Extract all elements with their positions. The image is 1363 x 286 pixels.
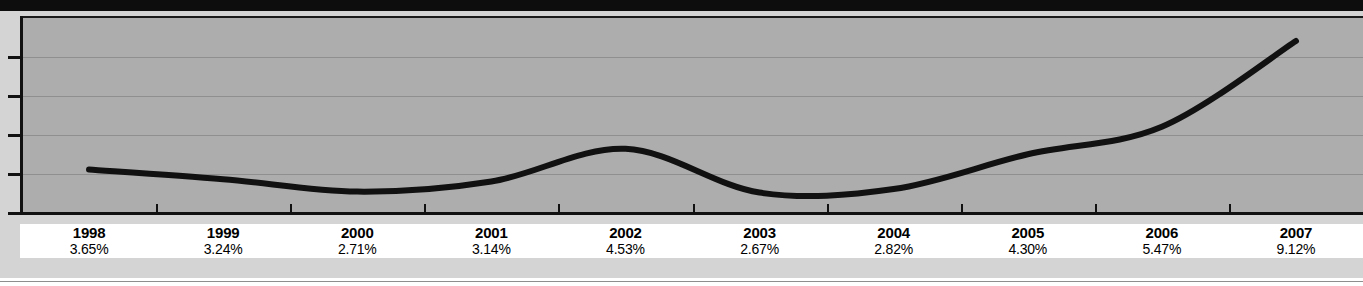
x-label-value: 5.47%	[1099, 241, 1225, 257]
y-axis-tick	[8, 173, 21, 176]
y-axis-tick	[8, 212, 21, 215]
x-label-cell: 20013.14%	[428, 224, 554, 257]
x-label-year: 2000	[294, 224, 420, 241]
x-label-year: 2003	[697, 224, 823, 241]
bottom-gutter	[0, 278, 1363, 286]
x-label-value: 4.53%	[562, 241, 688, 257]
x-label-cell: 20032.67%	[697, 224, 823, 257]
x-label-cell: 19983.65%	[26, 224, 152, 257]
x-label-year: 2006	[1099, 224, 1225, 241]
x-label-value: 4.30%	[965, 241, 1091, 257]
x-label-value: 3.14%	[428, 241, 554, 257]
x-label-year: 1998	[26, 224, 152, 241]
y-axis-tick	[8, 95, 21, 98]
x-label-cell: 20079.12%	[1233, 224, 1359, 257]
top-black-band	[0, 0, 1363, 11]
x-label-cell: 20065.47%	[1099, 224, 1225, 257]
x-label-year: 2004	[831, 224, 957, 241]
x-label-value: 3.24%	[160, 241, 286, 257]
x-label-value: 3.65%	[26, 241, 152, 257]
bottom-hairline-rule	[0, 281, 1363, 282]
x-label-value: 9.12%	[1233, 241, 1359, 257]
y-axis-tick	[8, 56, 21, 59]
x-label-value: 2.82%	[831, 241, 957, 257]
y-axis-tick	[8, 134, 21, 137]
x-label-cell: 20002.71%	[294, 224, 420, 257]
x-label-cell: 20024.53%	[562, 224, 688, 257]
x-axis-label-strip: 19983.65%19993.24%20002.71%20013.14%2002…	[20, 224, 1363, 258]
x-label-cell: 19993.24%	[160, 224, 286, 257]
data-series-line	[22, 18, 1363, 213]
x-label-year: 2002	[562, 224, 688, 241]
chart-figure: 19983.65%19993.24%20002.71%20013.14%2002…	[0, 0, 1363, 286]
x-label-value: 2.71%	[294, 241, 420, 257]
series-path	[89, 41, 1296, 196]
x-label-year: 2007	[1233, 224, 1359, 241]
x-label-year: 1999	[160, 224, 286, 241]
x-label-cell: 20042.82%	[831, 224, 957, 257]
x-label-year: 2005	[965, 224, 1091, 241]
x-label-cell: 20054.30%	[965, 224, 1091, 257]
x-label-year: 2001	[428, 224, 554, 241]
x-label-value: 2.67%	[697, 241, 823, 257]
